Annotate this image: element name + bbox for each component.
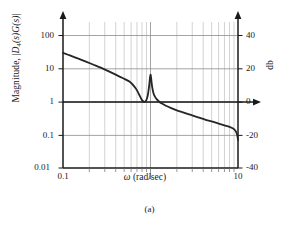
y-tick-label-right-20: 20	[246, 63, 276, 73]
left-axis-spine	[60, 11, 67, 168]
y-tick-label-right-40: 40	[246, 30, 276, 40]
left-axis-arrow	[60, 11, 67, 19]
right-axis-spine	[235, 11, 242, 168]
y-tick-label-left-100: 100	[24, 30, 54, 40]
x-tick-label-0.1: 0.1	[48, 171, 78, 181]
y-tick-label-left-1: 1	[24, 96, 54, 106]
y-tick-label-left-0.01: 0.01	[20, 162, 50, 172]
y-tick-label-left-10: 10	[24, 63, 54, 73]
y-tick-label-right-0: 0	[246, 96, 276, 106]
right-axis-arrow	[235, 11, 242, 19]
y-axis-label-left: Magnitude, |D4(s)G(s)|	[11, 0, 23, 123]
y-tick-label-right-minus20: -20	[246, 130, 276, 140]
x-tick-label-1: 1	[135, 171, 165, 181]
bode-magnitude-figure: Magnitude, |D4(s)G(s)| db ω (rad/sec) 10…	[0, 0, 299, 229]
y-tick-label-left-0.1: 0.1	[24, 130, 54, 140]
vertical-gridlines	[89, 22, 234, 168]
figure-caption: (a)	[0, 204, 299, 214]
x-tick-label-10: 10	[223, 171, 253, 181]
